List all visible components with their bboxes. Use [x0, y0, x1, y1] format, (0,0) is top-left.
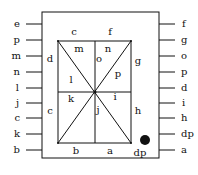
left-pin-label: m: [12, 50, 22, 61]
left-pin-label: b: [14, 144, 20, 155]
left-pin-label: n: [14, 66, 21, 77]
segment-label: c: [71, 26, 77, 37]
left-pin-label: p: [14, 34, 20, 45]
segment-label: p: [115, 68, 121, 79]
segment-label: a: [107, 145, 113, 156]
left-pin-label: e: [14, 18, 20, 29]
corner-node: [57, 142, 59, 144]
segment-label: m: [74, 43, 84, 54]
segment-label: d: [47, 53, 54, 64]
left-pin-label: j: [15, 97, 19, 108]
segment-label: k: [68, 93, 75, 104]
segment-label: g: [135, 55, 142, 66]
segment-label: n: [105, 43, 112, 54]
right-pin-label: d: [181, 82, 188, 93]
segment-label: o: [96, 53, 102, 64]
right-pin-group: f g o p d i h dp a: [159, 18, 194, 155]
segment-label: f: [108, 26, 113, 37]
right-pin-label: o: [181, 50, 187, 61]
left-pin-group: e p m n l j c k b: [12, 18, 42, 155]
right-pin-label: f: [182, 18, 187, 29]
center-node: [94, 91, 97, 94]
segment-label: l: [69, 74, 72, 85]
right-pin-label: h: [181, 112, 188, 123]
corner-node: [57, 40, 59, 42]
left-pin-label: k: [14, 128, 21, 139]
right-pin-label: i: [182, 97, 185, 108]
segment-label: h: [135, 105, 142, 116]
segment-label: j: [95, 104, 99, 115]
corner-node: [130, 40, 132, 42]
segment-label: b: [73, 145, 79, 156]
segment-display-diagram: e p m n l j c k b f g o p d i h dp a: [0, 0, 198, 175]
segment-label: c: [47, 105, 53, 116]
decimal-point-label: dp: [134, 147, 147, 158]
corner-node: [130, 142, 132, 144]
left-pin-label: c: [14, 112, 20, 123]
right-pin-label: g: [181, 34, 188, 45]
right-pin-label: p: [181, 66, 187, 77]
decimal-point-dot: [140, 135, 150, 145]
right-pin-label: a: [181, 144, 187, 155]
right-pin-label: dp: [181, 128, 194, 139]
segment-label: i: [113, 91, 116, 102]
left-pin-label: l: [16, 82, 19, 93]
package-outline: [42, 12, 159, 158]
